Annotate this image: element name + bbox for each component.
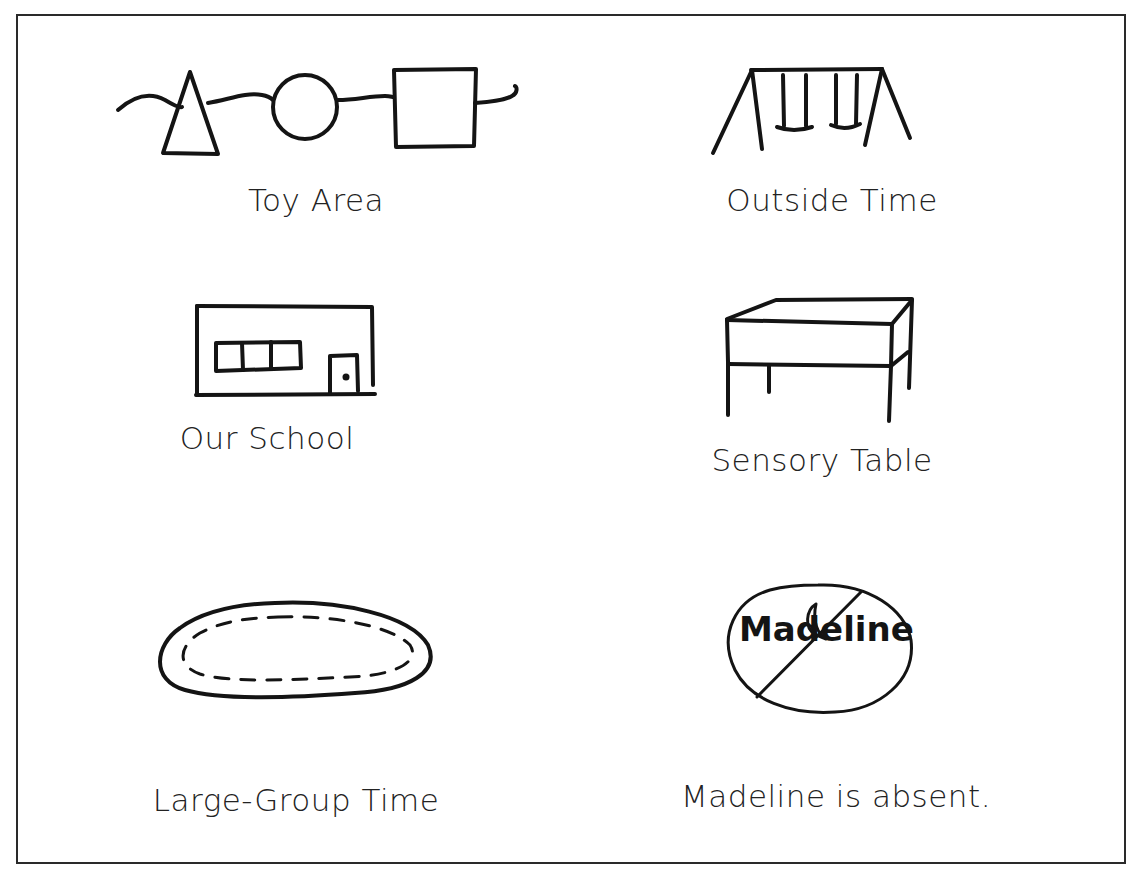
symbol-large-group-time: Large-Group Time bbox=[0, 520, 560, 885]
madeline-absent-label: Madeline is absent. bbox=[681, 778, 991, 814]
our-school-label: Our School bbox=[180, 420, 355, 456]
symbol-sensory-table: Sensory Table bbox=[560, 280, 1137, 520]
swing-set-icon bbox=[560, 0, 1137, 280]
absent-name-icon: Madeline bbox=[560, 520, 1137, 885]
toy-area-label: Toy Area bbox=[248, 182, 384, 218]
symbol-madeline-absent: Madeline Madeline is absent. bbox=[560, 520, 1137, 885]
shapes-on-line-icon bbox=[0, 0, 560, 280]
outside-time-label: Outside Time bbox=[726, 182, 937, 218]
symbol-our-school: Our School bbox=[0, 280, 560, 520]
sensory-table-label: Sensory Table bbox=[711, 442, 932, 478]
rug-oval-icon bbox=[0, 520, 560, 885]
symbol-toy-area: Toy Area bbox=[0, 0, 560, 280]
table-icon bbox=[560, 280, 1137, 520]
large-group-time-label: Large-Group Time bbox=[153, 782, 440, 818]
school-building-icon bbox=[0, 280, 560, 520]
symbol-outside-time: Outside Time bbox=[560, 0, 1137, 280]
